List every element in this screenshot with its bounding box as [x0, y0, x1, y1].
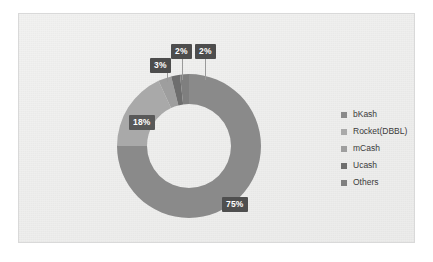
legend-swatch-icon [341, 146, 347, 152]
legend-label: bKash [353, 110, 377, 119]
data-label-others: 2% [195, 44, 216, 59]
legend-swatch-icon [341, 112, 347, 118]
chart-legend: bKash Rocket(DBBL) mCash Ucash Others [341, 106, 433, 191]
donut-chart-plot-area: 3% 2% 2% 18% 75% [19, 14, 339, 244]
donut-slice-rocket[interactable] [117, 81, 171, 146]
legend-label: Rocket(DBBL) [353, 127, 407, 136]
data-label-bkash: 75% [222, 197, 248, 212]
legend-item-mcash[interactable]: mCash [341, 140, 433, 157]
legend-label: mCash [353, 144, 380, 153]
callout-connector-others [205, 56, 206, 80]
data-label-ucash: 2% [171, 44, 192, 59]
legend-swatch-icon [341, 180, 347, 186]
legend-label: Others [353, 178, 379, 187]
legend-label: Ucash [353, 161, 377, 170]
legend-swatch-icon [341, 163, 347, 169]
data-label-mcash: 3% [150, 58, 171, 73]
legend-swatch-icon [341, 129, 347, 135]
legend-item-rocket[interactable]: Rocket(DBBL) [341, 123, 433, 140]
legend-item-ucash[interactable]: Ucash [341, 157, 433, 174]
legend-item-others[interactable]: Others [341, 174, 433, 191]
data-label-rocket: 18% [129, 115, 155, 130]
legend-item-bkash[interactable]: bKash [341, 106, 433, 123]
callout-connector-ucash [182, 56, 183, 80]
chart-frame: 3% 2% 2% 18% 75% bKash Rocket(DBBL) mCas… [18, 13, 415, 243]
